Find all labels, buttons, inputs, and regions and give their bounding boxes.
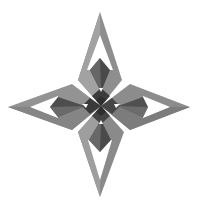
four-pointed-star-icon bbox=[0, 0, 203, 205]
star-image: 3D-rendered gray four-pointed star with … bbox=[0, 0, 203, 205]
center-hub bbox=[82, 88, 120, 124]
